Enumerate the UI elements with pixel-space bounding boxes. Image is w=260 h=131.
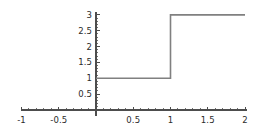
series-line-0 [96,15,245,78]
plot-canvas [0,0,260,131]
x-tick-label: -0.5 [50,116,67,125]
step-function-chart: 0.511.522.53 -1-0.50.511.52 [0,0,260,131]
x-tick-label: 0.5 [126,116,140,125]
y-tick-label: 2.5 [78,27,92,36]
x-tick-label: 1 [168,116,174,125]
y-tick-label: 3 [86,11,92,20]
y-tick-label: 2 [86,42,92,51]
x-tick-label: 2 [242,116,248,125]
data-series-group [96,15,245,78]
major-ticks-group [22,15,246,110]
y-tick-label: 0.5 [78,90,92,99]
y-tick-label: 1.5 [78,58,92,67]
x-tick-label: 1.5 [201,116,215,125]
y-tick-label: 1 [86,74,92,83]
axes-group [21,12,248,116]
x-tick-label: -1 [17,116,26,125]
minor-ticks-group [22,15,246,110]
